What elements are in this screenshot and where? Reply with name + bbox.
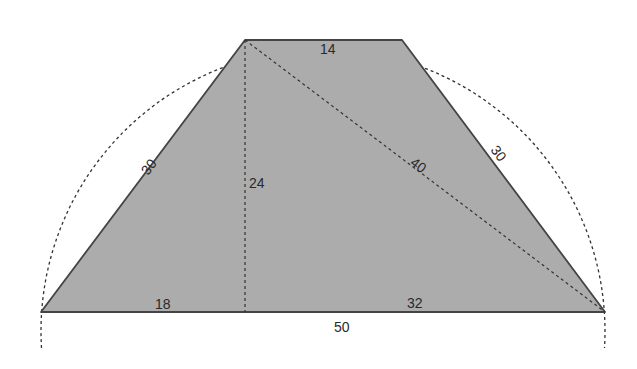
label-bottom-base: 50 bbox=[334, 319, 350, 335]
label-bottom-left-segment: 18 bbox=[155, 296, 171, 312]
trapezoid-diagram: 14 30 30 24 40 18 32 50 bbox=[0, 0, 637, 369]
trapezoid-shape bbox=[41, 40, 605, 312]
label-height: 24 bbox=[249, 175, 265, 191]
label-bottom-right-segment: 32 bbox=[407, 295, 423, 311]
label-top-base: 14 bbox=[320, 41, 336, 57]
